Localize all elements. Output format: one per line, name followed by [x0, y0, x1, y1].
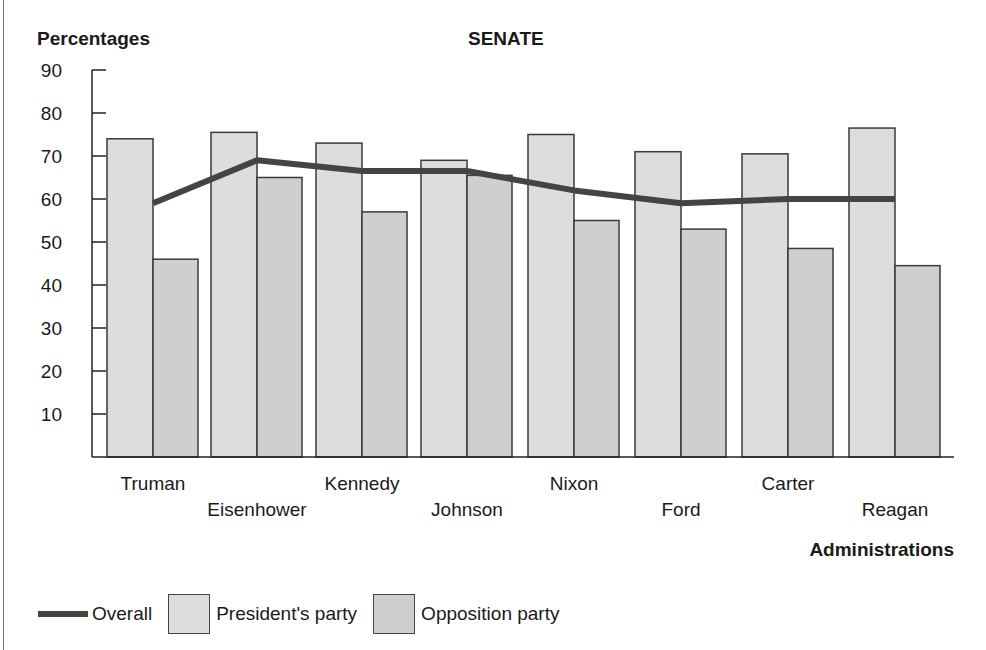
bar-opposition-ford — [681, 229, 726, 457]
legend-item-overall: Overall — [38, 603, 152, 625]
x-tick-label: Ford — [661, 499, 700, 520]
bar-opposition-reagan — [895, 266, 940, 457]
x-tick-label: Nixon — [550, 473, 599, 494]
x-tick-label: Eisenhower — [207, 499, 307, 520]
bar-president-kennedy — [316, 143, 362, 457]
y-tick-label: 30 — [41, 318, 62, 339]
x-tick-label: Reagan — [862, 499, 929, 520]
x-tick-label: Truman — [121, 473, 186, 494]
legend-label-opposition: Opposition party — [421, 603, 559, 625]
legend-item-opposition: Opposition party — [373, 594, 559, 634]
chart-plot-area: TrumanEisenhowerKennedyJohnsonNixonFordC… — [0, 0, 986, 650]
x-tick-label: Johnson — [431, 499, 503, 520]
legend-item-president: President's party — [168, 594, 357, 634]
bar-opposition-kennedy — [362, 212, 407, 457]
bar-president-eisenhower — [211, 132, 257, 457]
legend-swatch-opposition-icon — [373, 594, 415, 634]
y-tick-label: 40 — [41, 275, 62, 296]
bar-opposition-johnson — [467, 175, 512, 457]
bar-president-reagan — [849, 128, 895, 457]
bar-opposition-nixon — [574, 221, 619, 458]
legend-line-icon — [38, 611, 88, 617]
y-tick-label: 70 — [41, 146, 62, 167]
y-tick-label: 20 — [41, 361, 62, 382]
y-tick-label: 60 — [41, 189, 62, 210]
bar-president-truman — [107, 139, 153, 457]
legend-label-president: President's party — [216, 603, 357, 625]
bar-opposition-truman — [153, 259, 198, 457]
legend: Overall President's party Opposition par… — [38, 594, 575, 634]
legend-label-overall: Overall — [92, 603, 152, 625]
legend-swatch-president-icon — [168, 594, 210, 634]
bar-president-johnson — [421, 160, 467, 457]
y-tick-label: 10 — [41, 404, 62, 425]
y-tick-label: 90 — [41, 60, 62, 81]
y-tick-label: 50 — [41, 232, 62, 253]
x-tick-label: Carter — [762, 473, 815, 494]
y-tick-label: 80 — [41, 103, 62, 124]
bar-opposition-eisenhower — [257, 178, 302, 458]
x-tick-label: Kennedy — [324, 473, 400, 494]
bar-opposition-carter — [788, 248, 833, 457]
